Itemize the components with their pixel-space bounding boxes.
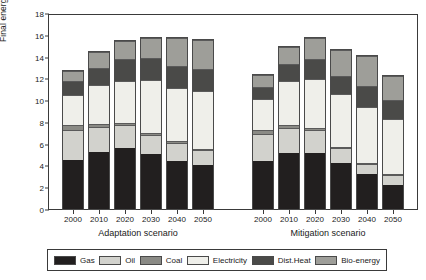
- legend-item-bio-energy: Bio-energy: [315, 256, 380, 265]
- stacked-bar: [278, 46, 300, 210]
- legend-item-electricity: Electricity: [187, 256, 247, 265]
- bar-segment-dist-heat: [279, 64, 299, 81]
- stacked-bar: [252, 74, 274, 210]
- bar-segment-electricity: [279, 81, 299, 125]
- bar-segment-electricity: [141, 80, 161, 133]
- bar-segment-gas: [141, 154, 161, 209]
- legend-label: Dist.Heat: [278, 256, 311, 265]
- bar-segment-electricity: [63, 95, 83, 125]
- legend-swatch-icon: [54, 256, 76, 265]
- bar-segment-bio-energy: [305, 38, 325, 60]
- y-tick-label: 6: [0, 140, 44, 149]
- stacked-bar: [192, 39, 214, 210]
- x-tick-mark: [203, 210, 204, 214]
- stacked-bar: [356, 55, 378, 210]
- legend-label: Electricity: [213, 256, 247, 265]
- bar-segment-dist-heat: [331, 76, 351, 94]
- bar-segment-electricity: [383, 119, 403, 174]
- scenario-label-mitigation: Mitigation scenario: [228, 228, 426, 238]
- x-tick-mark: [125, 210, 126, 214]
- bar-segment-oil: [331, 148, 351, 163]
- bar-segment-oil: [89, 127, 109, 152]
- stacked-bar: [140, 37, 162, 210]
- bar-segment-dist-heat: [89, 68, 109, 85]
- x-tick-mark: [151, 210, 152, 214]
- bar-segment-electricity: [89, 85, 109, 124]
- bar-segment-dist-heat: [193, 69, 213, 91]
- stacked-bar: [330, 49, 352, 210]
- x-tick-label: 2050: [376, 215, 410, 224]
- bar-segment-dist-heat: [253, 87, 273, 99]
- bar-segment-bio-energy: [193, 40, 213, 69]
- bar-segment-electricity: [253, 99, 273, 130]
- bar-segment-oil: [167, 143, 187, 160]
- y-tick-label: 0: [0, 206, 44, 215]
- bar-segment-bio-energy: [383, 76, 403, 100]
- legend-swatch-icon: [187, 256, 209, 265]
- y-tick-label: 14: [0, 53, 44, 62]
- bar-segment-electricity: [115, 81, 135, 123]
- y-tick-label: 12: [0, 75, 44, 84]
- bar-segment-gas: [305, 153, 325, 209]
- legend-label: Gas: [80, 256, 95, 265]
- stacked-bar: [166, 37, 188, 210]
- legend-label: Oil: [125, 256, 135, 265]
- x-tick-mark: [263, 210, 264, 214]
- legend-swatch-icon: [140, 256, 162, 265]
- bar-segment-dist-heat: [63, 81, 83, 95]
- bar-segment-dist-heat: [357, 86, 377, 106]
- x-tick-label: 2050: [186, 215, 220, 224]
- bar-segment-bio-energy: [357, 56, 377, 86]
- y-tick-label: 18: [0, 10, 44, 19]
- bar-segment-gas: [63, 160, 83, 209]
- legend-item-oil: Oil: [99, 256, 135, 265]
- bar-segment-gas: [331, 163, 351, 209]
- bar-segment-bio-energy: [89, 52, 109, 68]
- bar-segment-oil: [115, 125, 135, 148]
- bar-segment-bio-energy: [279, 47, 299, 64]
- y-tick-label: 8: [0, 118, 44, 127]
- chart-figure: Final energy demand (EJ) 024681012141618…: [0, 0, 426, 280]
- bar-segment-bio-energy: [253, 75, 273, 87]
- bars-layer: [48, 14, 418, 210]
- bar-segment-bio-energy: [115, 41, 135, 59]
- stacked-bar: [62, 70, 84, 210]
- bar-segment-oil: [279, 128, 299, 153]
- bar-segment-electricity: [331, 94, 351, 147]
- stacked-bar: [88, 51, 110, 210]
- stacked-bar: [114, 40, 136, 210]
- bar-segment-dist-heat: [141, 58, 161, 80]
- y-tick-label: 16: [0, 31, 44, 40]
- x-tick-mark: [341, 210, 342, 214]
- x-tick-mark: [177, 210, 178, 214]
- bar-segment-oil: [141, 135, 161, 154]
- legend-label: Bio-energy: [341, 256, 380, 265]
- x-tick-mark: [315, 210, 316, 214]
- x-tick-mark: [289, 210, 290, 214]
- bar-segment-bio-energy: [141, 38, 161, 58]
- bar-segment-gas: [383, 185, 403, 209]
- stacked-bar: [304, 37, 326, 210]
- bar-segment-oil: [253, 134, 273, 161]
- scenario-label-adaptation: Adaptation scenario: [38, 228, 238, 238]
- bar-segment-gas: [167, 161, 187, 209]
- bar-segment-gas: [89, 152, 109, 209]
- legend-swatch-icon: [252, 256, 274, 265]
- bar-segment-dist-heat: [115, 59, 135, 81]
- bar-segment-dist-heat: [383, 100, 403, 119]
- legend-item-coal: Coal: [140, 256, 182, 265]
- bar-segment-electricity: [167, 88, 187, 141]
- x-tick-mark: [99, 210, 100, 214]
- bar-segment-gas: [357, 174, 377, 209]
- x-tick-mark: [393, 210, 394, 214]
- bar-segment-bio-energy: [167, 38, 187, 66]
- legend-label: Coal: [166, 256, 182, 265]
- bar-segment-gas: [279, 153, 299, 209]
- bar-segment-electricity: [193, 91, 213, 149]
- bar-segment-oil: [193, 150, 213, 165]
- bar-segment-electricity: [305, 79, 325, 129]
- legend-item-dist-heat: Dist.Heat: [252, 256, 311, 265]
- x-tick-mark: [367, 210, 368, 214]
- legend-swatch-icon: [99, 256, 121, 265]
- bar-segment-dist-heat: [305, 59, 325, 78]
